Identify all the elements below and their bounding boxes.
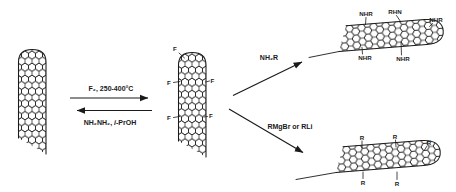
fluorine-label: F: [167, 114, 171, 121]
amide-label: NHR: [429, 16, 443, 23]
pristine-nanotube: [19, 50, 47, 155]
nanotube-reaction-scheme: F₂, 250-400°C NH₂NH₂, i-PrOH F F F F F N…: [0, 0, 456, 192]
defluorination-solvent: -PrOH: [116, 119, 136, 126]
defluorination-reagent: NH₂NH₂,: [84, 119, 114, 127]
alkyl-label: R: [360, 134, 365, 141]
fluorinated-nanotube: F F F F F: [167, 45, 215, 157]
amide-label: RHN: [388, 8, 402, 15]
alkylated-nanotube: R R R R R: [296, 133, 441, 187]
alkyl-label: R: [393, 133, 398, 140]
reaction-scheme-canvas: F₂, 250-400°C NH₂NH₂, i-PrOH F F F F F N…: [0, 0, 456, 192]
amide-label: NHR: [396, 55, 410, 62]
aminated-nanotube: NHR RHN NHR NHR NHR: [309, 8, 444, 62]
equilibrium-arrows: F₂, 250-400°C NH₂NH₂, i-PrOH: [70, 85, 152, 127]
fluorine-label: F: [173, 45, 177, 52]
amination-branch: NH₂R: [233, 54, 302, 96]
alkyl-label: R: [361, 179, 366, 186]
amide-label: NHR: [358, 54, 372, 61]
fluorine-label: F: [167, 79, 171, 86]
fluorination-conditions-label: F₂, 250-400°C: [89, 85, 134, 93]
alkylation-branch: RMgBr or RLi: [229, 109, 313, 153]
alkylation-arrow: [229, 109, 303, 153]
fluorine-label: F: [209, 112, 213, 119]
amination-reagent-label: NH₂R: [260, 54, 278, 61]
amide-label: NHR: [359, 10, 373, 17]
alkyl-label: R: [427, 139, 432, 146]
fluorine-label: F: [211, 77, 215, 84]
alkylation-reagent-label: RMgBr or RLi: [267, 123, 312, 131]
alkyl-label: R: [395, 180, 400, 187]
defluorination-conditions-label: NH₂NH₂, i-PrOH: [84, 119, 137, 127]
amination-arrow: [233, 62, 302, 96]
